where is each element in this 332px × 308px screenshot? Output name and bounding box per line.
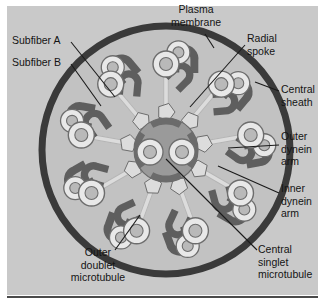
central-singlet-microtubule — [169, 139, 195, 165]
subfiber-a-lumen — [85, 187, 98, 200]
label-subfiber-b: Subfiber B — [12, 56, 61, 68]
subfiber-a-lumen — [244, 129, 257, 142]
label-line: arm — [281, 207, 299, 219]
figure-root: PlasmamembraneRadialspokeSubfiber ASubfi… — [0, 0, 332, 308]
label-line: Plasma — [178, 3, 213, 15]
label-line: microtubule — [71, 271, 125, 283]
label-central-sheath: Centralsheath — [281, 83, 315, 108]
label-line: Inner — [281, 182, 305, 194]
label-line: sheath — [281, 96, 313, 108]
subfiber-a-lumen — [104, 78, 117, 91]
label-line: Subfiber B — [12, 56, 61, 68]
label-line: Subfiber A — [12, 34, 60, 46]
label-inner-dynein-arm: Innerdyneinarm — [281, 182, 312, 219]
label-line: Radial — [247, 32, 277, 44]
label-line: Outer — [281, 130, 308, 142]
subfiber-a-lumen — [75, 129, 88, 142]
subfiber-a-lumen — [234, 187, 247, 200]
label-line: spoke — [247, 45, 275, 57]
label-line: Central — [258, 243, 292, 255]
central-singlet-lumen — [176, 146, 189, 159]
label-line: doublet — [81, 259, 116, 271]
central-singlet-microtubule — [137, 139, 163, 165]
label-line: Central — [281, 83, 315, 95]
label-line: singlet — [258, 256, 288, 268]
central-apparatus-layer — [134, 118, 198, 182]
subfiber-a-lumen — [189, 224, 202, 237]
subfiber-a-lumen — [160, 58, 173, 71]
label-line: Outer — [85, 246, 112, 258]
label-outer-dynein-arm: Outerdyneinarm — [281, 130, 312, 167]
subfiber-a-lumen — [215, 78, 228, 91]
label-line: microtubule — [258, 268, 312, 280]
label-line: dynein — [281, 143, 312, 155]
label-line: arm — [281, 155, 299, 167]
label-radial-spoke: Radialspoke — [247, 32, 277, 57]
label-line: dynein — [281, 195, 312, 207]
central-singlet-lumen — [144, 146, 157, 159]
axoneme-diagram: PlasmamembraneRadialspokeSubfiber ASubfi… — [0, 0, 332, 308]
label-central-singlet-microtubule: Centralsingletmicrotubule — [258, 243, 312, 280]
label-plasma-membrane: Plasmamembrane — [171, 3, 221, 28]
label-subfiber-a: Subfiber A — [12, 34, 60, 46]
label-line: membrane — [171, 16, 221, 28]
